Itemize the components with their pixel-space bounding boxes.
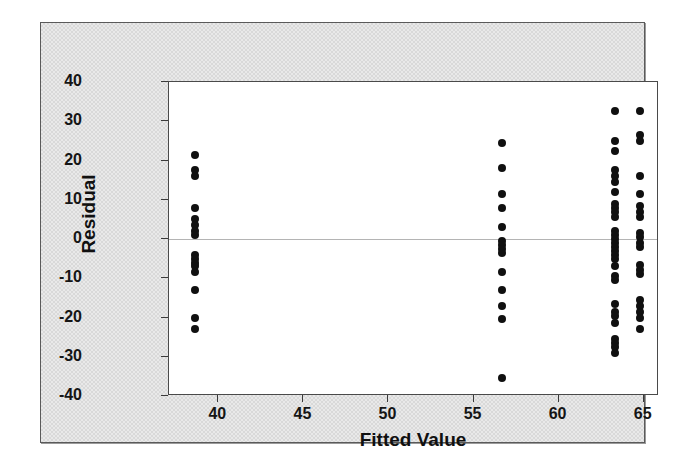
scatter-point [611,147,619,155]
scatter-point [498,302,506,310]
scatter-point [191,268,199,276]
y-tick-label: 30 [22,112,82,128]
scatter-point [498,286,506,294]
x-tick-mark [302,395,303,402]
scatter-point [498,374,506,382]
scatter-point [636,213,644,221]
scatter-point [498,139,506,147]
scatter-point [191,325,199,333]
x-tick-label: 60 [528,406,588,422]
scatter-point [611,188,619,196]
x-tick-mark [473,395,474,402]
scatter-point [498,315,506,323]
scatter-point [498,223,506,231]
x-tick-label: 55 [443,406,503,422]
x-tick-mark [558,395,559,402]
scatter-point [636,137,644,145]
y-tick-mark [161,277,168,278]
y-axis-title: Residual [78,124,100,304]
scatter-point [636,172,644,180]
scatter-point [611,213,619,221]
scatter-point [611,255,619,263]
y-tick-label: -30 [22,348,82,364]
y-tick-mark [161,199,168,200]
scatter-point [191,314,199,322]
scatter-point [498,268,506,276]
figure-panel: 403020100-10-20-30-40 404550556065 Resid… [40,22,645,443]
screenshot-root: 403020100-10-20-30-40 404550556065 Resid… [0,0,675,465]
scatter-point [611,319,619,327]
scatter-point [636,325,644,333]
scatter-point [191,231,199,239]
x-tick-label: 65 [613,406,673,422]
y-tick-label: -10 [22,269,82,285]
scatter-point [191,286,199,294]
scatter-point [636,314,644,322]
y-tick-mark [161,238,168,239]
y-tick-mark [161,395,168,396]
y-tick-label: 10 [22,191,82,207]
scatter-point [191,204,199,212]
scatter-point [636,190,644,198]
y-tick-label: -40 [22,387,82,403]
x-tick-label: 40 [187,406,247,422]
scatter-point [636,270,644,278]
x-tick-mark [217,395,218,402]
scatter-point [191,172,199,180]
y-tick-label: 0 [22,230,82,246]
scatter-point [611,312,619,320]
y-tick-label: -20 [22,309,82,325]
scatter-point [498,249,506,257]
scatter-point [636,243,644,251]
x-tick-label: 45 [272,406,332,422]
x-tick-mark [643,395,644,402]
scatter-point [636,107,644,115]
scatter-point [611,178,619,186]
y-tick-label: 40 [22,73,82,89]
y-tick-mark [161,120,168,121]
scatter-point [611,107,619,115]
y-tick-mark [161,81,168,82]
y-tick-label: 20 [22,152,82,168]
scatter-point [191,151,199,159]
plot-area [168,81,658,395]
scatter-point [611,137,619,145]
scatter-point [498,164,506,172]
scatter-point [611,276,619,284]
zero-reference-line [169,239,657,240]
scatter-point [611,349,619,357]
scatter-point [611,262,619,270]
x-tick-mark [387,395,388,402]
y-tick-mark [161,317,168,318]
scatter-point [611,300,619,308]
scatter-point [498,204,506,212]
scatter-point [498,190,506,198]
y-tick-mark [161,356,168,357]
y-tick-mark [161,160,168,161]
x-tick-label: 50 [357,406,417,422]
x-axis-title: Fitted Value [168,429,658,451]
